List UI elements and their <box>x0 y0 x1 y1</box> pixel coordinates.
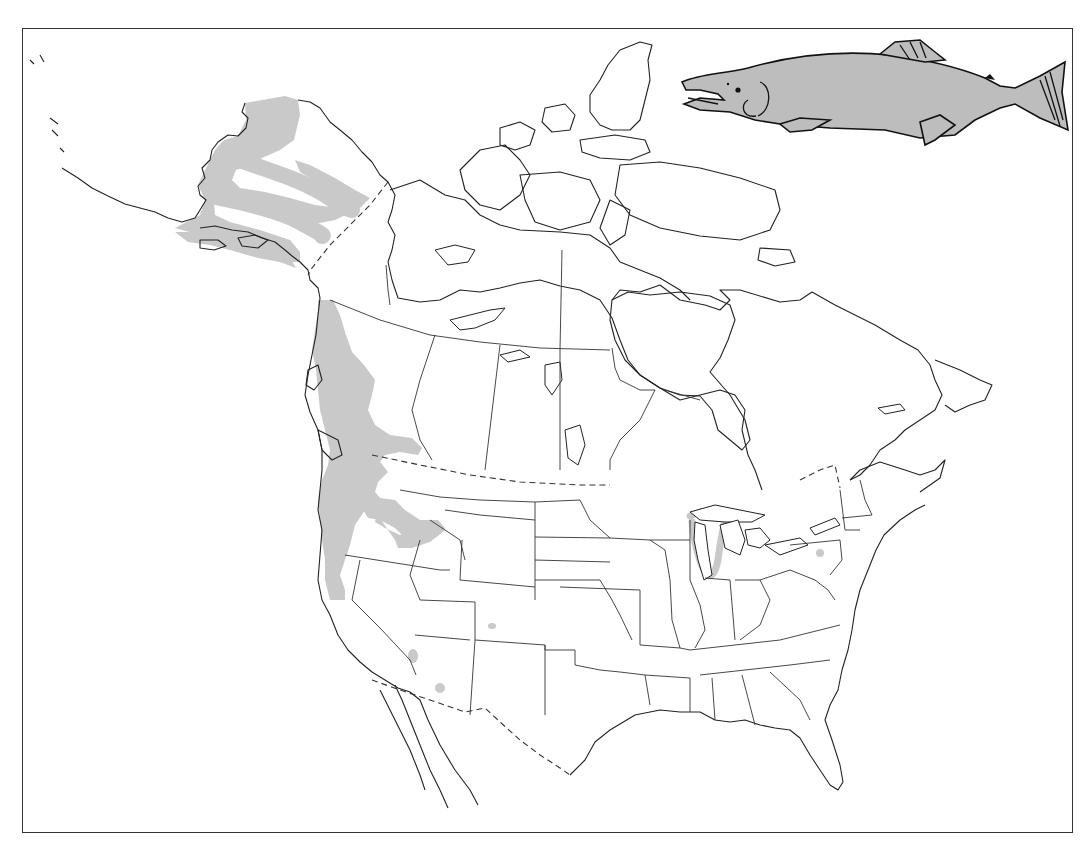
range-area-pacific-coast <box>312 300 445 600</box>
range-map <box>0 0 1086 845</box>
range-area-alaska <box>175 96 370 268</box>
hudson-bay <box>610 292 750 450</box>
canada-mainland <box>388 262 992 492</box>
international-borders <box>308 182 840 775</box>
sockeye-salmon-icon <box>682 40 1068 145</box>
gulf-and-atlantic-coast <box>570 505 925 790</box>
lakes <box>435 245 905 580</box>
